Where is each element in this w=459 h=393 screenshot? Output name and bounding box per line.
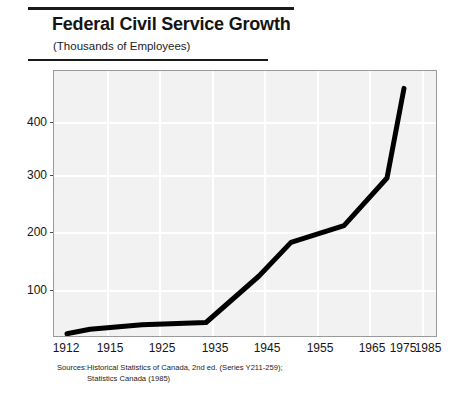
page-title: Federal Civil Service Growth <box>52 14 291 35</box>
sources-note: Sources:Historical Statistics of Canada,… <box>57 363 283 384</box>
y-axis-label-300: 300 <box>13 168 47 182</box>
x-axis-label-1925: 1925 <box>140 341 184 355</box>
x-axis-label-1945: 1945 <box>245 341 289 355</box>
plot-inner <box>54 71 436 336</box>
page-subtitle: (Thousands of Employees) <box>53 40 190 52</box>
sources-label: Sources: <box>57 363 87 374</box>
x-axis-label-1935: 1935 <box>193 341 237 355</box>
x-axis-label-1912: 1912 <box>44 341 88 355</box>
data-line-series <box>54 71 436 336</box>
x-axis-label-1915: 1915 <box>88 341 132 355</box>
sources-line-2: Statistics Canada (1985) <box>57 374 283 385</box>
chart-page: Federal Civil Service Growth (Thousands … <box>0 0 459 393</box>
y-axis-label-400: 400 <box>13 115 47 129</box>
x-axis-label-1955: 1955 <box>298 341 342 355</box>
sources-line-1: Historical Statistics of Canada, 2nd ed.… <box>87 363 283 372</box>
plot-area <box>53 70 437 337</box>
y-axis-label-100: 100 <box>13 283 47 297</box>
x-axis-label-1985: 1985 <box>406 341 450 355</box>
header-rule-top <box>28 7 294 10</box>
header-rule-bottom <box>28 59 268 61</box>
y-axis-label-200: 200 <box>13 225 47 239</box>
